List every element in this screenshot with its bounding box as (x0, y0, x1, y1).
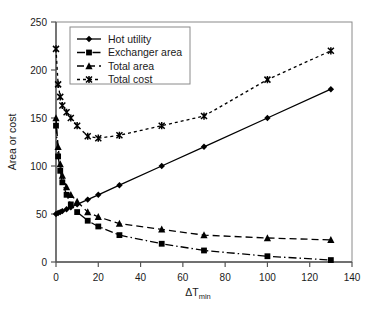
y-tick-label: 250 (30, 17, 47, 28)
y-tick-label: 100 (30, 161, 47, 172)
x-tick-label: 100 (259, 272, 276, 283)
legend-label: Total cost (108, 73, 152, 85)
y-tick-label: 50 (36, 209, 48, 220)
x-tick-label: 140 (344, 272, 361, 283)
data-point (265, 253, 271, 259)
x-axis-title-sub: min (199, 292, 211, 301)
y-tick-label: 200 (30, 65, 47, 76)
x-tick-label: 80 (220, 272, 232, 283)
data-point (85, 218, 91, 224)
line-chart: 050100150200250 020406080100120140 Area … (0, 0, 388, 314)
data-point (328, 257, 334, 263)
x-tick-label: 0 (53, 272, 59, 283)
y-axis-title: Area or cost (6, 114, 18, 171)
y-tick-label: 150 (30, 113, 47, 124)
legend-label: Total area (108, 60, 154, 72)
legend-label: Hot utility (108, 33, 152, 45)
data-point (117, 232, 123, 238)
data-point (201, 248, 207, 254)
data-point (59, 179, 65, 185)
legend-marker-sample (86, 50, 92, 56)
chart-figure: 050100150200250 020406080100120140 Area … (0, 0, 388, 314)
y-tick-label: 0 (41, 257, 47, 268)
chart-legend: Hot utilityExchanger areaTotal areaTotal… (70, 27, 190, 85)
x-axis-title-main: ΔT (185, 286, 199, 298)
data-point (74, 209, 80, 215)
x-tick-label: 20 (93, 272, 105, 283)
data-point (55, 154, 61, 160)
data-point (68, 202, 74, 208)
data-point (159, 241, 165, 247)
x-tick-label: 120 (301, 272, 318, 283)
data-point (95, 224, 101, 230)
legend-label: Exchanger area (108, 46, 182, 58)
x-tick-label: 60 (177, 272, 189, 283)
x-tick-label: 40 (135, 272, 147, 283)
